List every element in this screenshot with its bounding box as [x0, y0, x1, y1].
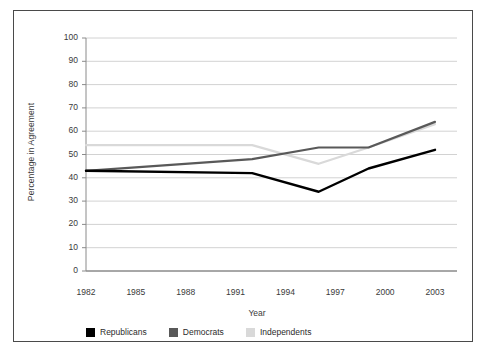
x-tick-label: 1997 [315, 287, 355, 297]
legend-swatch-icon [86, 328, 95, 337]
legend-swatch-icon [169, 328, 178, 337]
legend-label: Democrats [183, 327, 224, 337]
legend-item: Democrats [169, 327, 224, 337]
chart-frame: Percentage in Agreement 0102030405060708… [13, 10, 473, 342]
x-tick-label: 1991 [216, 287, 256, 297]
legend-label: Republicans [100, 327, 147, 337]
x-tick-label: 1982 [66, 287, 106, 297]
x-tick-label: 1988 [166, 287, 206, 297]
y-tick-label: 40 [48, 172, 78, 182]
y-tick-label: 100 [48, 32, 78, 42]
legend-item: Independents [246, 327, 312, 337]
y-tick-label: 30 [48, 195, 78, 205]
legend-swatch-icon [246, 328, 255, 337]
legend-item: Republicans [86, 327, 147, 337]
chart-legend: RepublicansDemocratsIndependents [86, 327, 311, 337]
y-tick-label: 10 [48, 242, 78, 252]
y-tick-label: 0 [48, 265, 78, 275]
x-tick-label: 1985 [116, 287, 156, 297]
y-tick-marks [82, 38, 86, 271]
x-tick-label: 2003 [415, 287, 455, 297]
y-axis-title: Percentage in Agreement [26, 72, 36, 232]
y-tick-label: 60 [48, 125, 78, 135]
y-tick-label: 20 [48, 218, 78, 228]
x-tick-label: 2000 [365, 287, 405, 297]
x-tick-label: 1994 [265, 287, 305, 297]
y-tick-label: 90 [48, 55, 78, 65]
y-tick-label: 70 [48, 102, 78, 112]
gridlines [86, 38, 457, 271]
chart-figure: Percentage in Agreement 0102030405060708… [0, 0, 486, 354]
series-lines [86, 122, 435, 192]
x-axis-title: Year [14, 308, 486, 318]
legend-label: Independents [260, 327, 312, 337]
series-line-republicans [86, 150, 435, 192]
y-tick-label: 50 [48, 149, 78, 159]
y-tick-label: 80 [48, 79, 78, 89]
